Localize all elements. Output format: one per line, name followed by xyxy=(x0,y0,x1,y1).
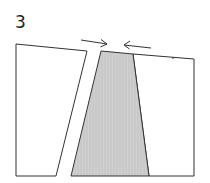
arrow-right-icon xyxy=(81,40,107,48)
compression-diagram xyxy=(0,0,210,183)
arrow-left-icon xyxy=(124,41,151,49)
